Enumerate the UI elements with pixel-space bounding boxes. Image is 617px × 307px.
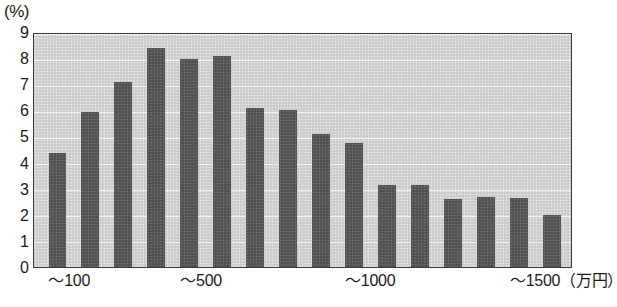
y-axis-tick-label: 9 [3, 25, 29, 41]
y-axis-tick-label: 8 [3, 51, 29, 67]
y-axis-tick-label: 3 [3, 182, 29, 198]
x-axis-tick-label: ～100 [48, 272, 90, 290]
y-axis-unit-label: (%) [4, 2, 29, 22]
bar [543, 215, 561, 267]
bar [114, 82, 132, 267]
y-axis-tick-label: 0 [3, 260, 29, 276]
bar [180, 59, 198, 267]
bar [279, 110, 297, 267]
x-axis-tick-label: ～1500（万円） [510, 272, 617, 290]
bar [444, 199, 462, 267]
x-axis-tick-label: ～1000 [345, 272, 395, 290]
bar [312, 134, 330, 267]
y-axis-tick-label: 5 [3, 129, 29, 145]
bar [213, 56, 231, 268]
y-axis-tick-label: 7 [3, 77, 29, 93]
y-axis-tick-label: 6 [3, 103, 29, 119]
bar [345, 143, 363, 267]
bar [510, 198, 528, 267]
bar [49, 153, 67, 267]
y-axis-tick-label: 1 [3, 234, 29, 250]
bar [411, 185, 429, 267]
bar [81, 112, 99, 267]
bar [147, 48, 165, 267]
bar [378, 185, 396, 267]
bar [246, 108, 264, 267]
bar [477, 197, 495, 268]
y-axis-tick-label: 4 [3, 156, 29, 172]
plot-area [33, 33, 572, 268]
gridline [34, 60, 571, 61]
gridline [34, 34, 571, 35]
y-axis-tick-label: 2 [3, 208, 29, 224]
x-axis-tick-label: ～500 [180, 272, 222, 290]
